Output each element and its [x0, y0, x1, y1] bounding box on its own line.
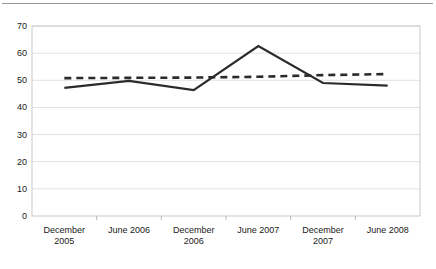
x-axis-tick-label: December2007	[291, 225, 356, 247]
series-line-dashed-series	[64, 74, 387, 78]
x-axis-tick-label: June 2006	[97, 225, 162, 236]
y-axis-tick-label: 10	[5, 184, 27, 194]
x-axis-tick-label-line1: December	[161, 225, 226, 236]
x-axis-tick-label-line1: June 2007	[226, 225, 291, 236]
x-axis-tick-label-line1: June 2006	[97, 225, 162, 236]
x-axis-tick-label: December2006	[161, 225, 226, 247]
x-axis-tick-label-line1: December	[32, 225, 97, 236]
y-axis-tick-label: 50	[5, 75, 27, 85]
x-axis-tick-label-line2: 2007	[291, 236, 356, 247]
y-axis-tick-label: 30	[5, 130, 27, 140]
x-axis-tick-label: June 2007	[226, 225, 291, 236]
y-axis-tick-label: 40	[5, 102, 27, 112]
y-axis-tick-label: 0	[5, 211, 27, 221]
plot-frame	[32, 26, 420, 216]
x-axis-ticks-group	[97, 216, 356, 220]
x-axis-tick-label-line1: December	[291, 225, 356, 236]
chart-figure: 010203040506070 December2005June 2006Dec…	[0, 0, 436, 269]
x-axis-tick-label-line2: 2006	[161, 236, 226, 247]
x-axis-tick-label: June 2008	[355, 225, 420, 236]
x-axis-tick-label-line1: June 2008	[355, 225, 420, 236]
y-axis-tick-label: 20	[5, 157, 27, 167]
y-axis-tick-label: 60	[5, 48, 27, 58]
gridlines-group	[32, 26, 420, 189]
x-axis-tick-label-line2: 2005	[32, 236, 97, 247]
y-axis-tick-label: 70	[5, 21, 27, 31]
x-axis-tick-label: December2005	[32, 225, 97, 247]
